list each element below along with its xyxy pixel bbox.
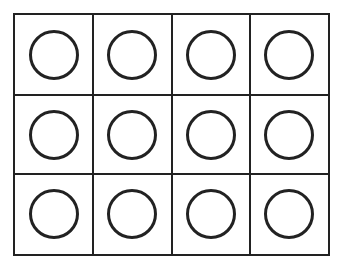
circle-shape	[107, 30, 157, 80]
circle-shape	[264, 110, 314, 160]
circle-shape	[107, 110, 157, 160]
circle-shape	[186, 110, 236, 160]
grid-row-divider	[15, 94, 328, 96]
circle-shape	[186, 189, 236, 239]
circle-shape	[264, 30, 314, 80]
circle-shape	[264, 189, 314, 239]
circle-shape	[107, 189, 157, 239]
circle-shape	[186, 30, 236, 80]
grid-row-divider	[15, 173, 328, 175]
grid-column-divider	[92, 15, 94, 254]
circle-shape	[29, 30, 79, 80]
circle-shape	[29, 110, 79, 160]
grid-column-divider	[171, 15, 173, 254]
grid-column-divider	[249, 15, 251, 254]
circle-shape	[29, 189, 79, 239]
circle-grid	[13, 13, 330, 256]
